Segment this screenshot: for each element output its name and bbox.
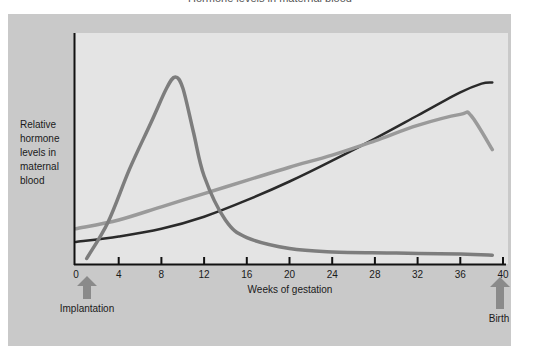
birth-arrow-icon — [490, 277, 510, 309]
x-tick-label: 20 — [284, 269, 296, 280]
x-tick-label: 36 — [455, 269, 467, 280]
implantation-label: Implantation — [60, 303, 114, 314]
x-axis-title: Weeks of gestation — [248, 284, 333, 295]
x-tick-label: 0 — [73, 269, 79, 280]
x-tick-label: 12 — [199, 269, 211, 280]
x-tick-label: 8 — [159, 269, 165, 280]
implantation-arrow-icon — [77, 276, 97, 299]
x-tick-label: 4 — [116, 269, 122, 280]
x-tick-label: 16 — [241, 269, 253, 280]
chart-svg: 0481216202428323640 Weeks of gestation I… — [0, 0, 536, 354]
birth-label: Birth — [489, 313, 510, 324]
x-tick-label: 28 — [369, 269, 381, 280]
x-tick-label: 32 — [412, 269, 424, 280]
x-tick-label: 24 — [327, 269, 339, 280]
